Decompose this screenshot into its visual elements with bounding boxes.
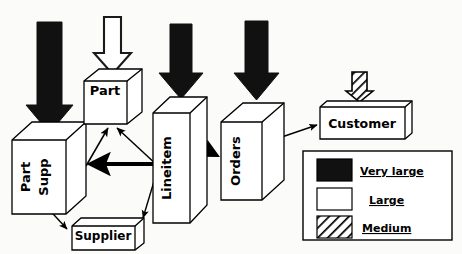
legend-swatch-large [317, 188, 352, 210]
legend-swatch-medium [317, 216, 352, 238]
legend-swatch-very-large [317, 159, 352, 181]
entity-lineitem[interactable]: Lineitem [153, 97, 207, 223]
size-arrow-part [94, 17, 131, 74]
entity-label-lineitem: Lineitem [159, 136, 174, 200]
entity-supplier[interactable]: Supplier [72, 218, 144, 250]
size-arrow-part-supp [26, 22, 73, 133]
entity-label-part-supp-line2: Supp [36, 158, 51, 195]
entity-part[interactable]: Part [84, 69, 142, 124]
entity-customer[interactable]: Customer [320, 101, 412, 139]
diagram-svg: Part Supp Part Supplier Lineitem [0, 0, 462, 254]
entity-label-supplier: Supplier [75, 229, 132, 243]
entity-label-part: Part [90, 83, 121, 98]
entity-label-customer: Customer [328, 116, 397, 131]
legend-label-large: Large [369, 194, 404, 207]
entity-label-part-supp-line1: Part [18, 162, 33, 193]
entity-label-orders: Orders [228, 136, 243, 186]
entity-orders[interactable]: Orders [221, 103, 284, 200]
size-arrow-lineitem [159, 24, 203, 99]
connector-partsupp-part [86, 128, 108, 166]
size-arrow-customer [346, 72, 373, 102]
size-arrow-orders [234, 21, 279, 100]
legend-label-very-large: Very large [360, 165, 424, 178]
diagram-canvas: Part Supp Part Supplier Lineitem [0, 0, 462, 254]
legend: Very large Large Medium [303, 151, 452, 240]
connector-lineitem-part [117, 128, 158, 166]
legend-label-medium: Medium [362, 222, 411, 235]
entity-part-supp[interactable]: Part Supp [12, 122, 86, 214]
